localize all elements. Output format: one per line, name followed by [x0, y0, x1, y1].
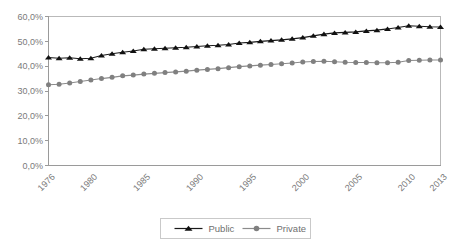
data-point-marker	[184, 69, 189, 74]
data-point-marker	[205, 67, 210, 72]
data-point-marker	[163, 70, 168, 75]
y-axis-tick-label: 0,0%	[22, 161, 43, 171]
data-point-marker	[279, 61, 284, 66]
data-point-marker	[173, 69, 178, 74]
data-point-marker	[396, 60, 401, 65]
chart-container: 0,0%10,0%20,0%30,0%40,0%50,0%60,0% 19761…	[0, 0, 454, 244]
plot-frame	[49, 17, 441, 166]
line-chart: 0,0%10,0%20,0%30,0%40,0%50,0%60,0% 19761…	[0, 0, 454, 244]
data-point-marker	[258, 63, 263, 68]
data-point-marker	[300, 59, 305, 64]
legend-item-label: Private	[277, 223, 307, 234]
data-point-marker	[46, 82, 51, 87]
y-axis-tick-label: 40,0%	[17, 61, 43, 71]
x-axis-tick-label: 2000	[290, 172, 311, 193]
x-axis-tick-label: 1976	[36, 172, 57, 193]
series-layer	[45, 23, 444, 87]
data-point-marker	[216, 66, 221, 71]
data-point-marker	[67, 81, 72, 86]
series-line-private	[49, 60, 441, 85]
data-point-marker	[237, 64, 242, 69]
data-point-marker	[110, 75, 115, 80]
series-public	[45, 23, 444, 61]
x-axis-tick-label: 1990	[184, 172, 205, 193]
data-point-marker	[311, 59, 316, 64]
x-axis-tick-label: 1980	[78, 172, 99, 193]
data-point-marker	[120, 73, 125, 78]
data-point-marker	[290, 60, 295, 65]
x-axis-tick-label: 1995	[237, 172, 258, 193]
data-point-marker	[427, 57, 432, 62]
data-point-marker	[78, 79, 83, 84]
data-point-marker	[417, 58, 422, 63]
data-point-marker	[343, 60, 348, 65]
data-point-marker	[406, 58, 411, 63]
data-point-marker	[385, 60, 390, 65]
data-point-marker	[268, 62, 273, 67]
legend-marker-circle-icon	[254, 226, 260, 232]
y-axis-tick-label: 60,0%	[17, 12, 43, 22]
chart-legend: PublicPrivate	[161, 219, 311, 239]
data-point-marker	[438, 57, 443, 62]
data-point-marker	[99, 76, 104, 81]
data-point-marker	[131, 73, 136, 78]
data-point-marker	[194, 68, 199, 73]
y-axis-tick-label: 30,0%	[17, 86, 43, 96]
x-axis-tick-label: 1985	[131, 172, 152, 193]
x-axis-tick-label: 2013	[428, 172, 449, 193]
series-private	[46, 57, 443, 87]
data-point-marker	[152, 71, 157, 76]
x-axis-tick-label: 2010	[396, 172, 417, 193]
series-line-public	[49, 26, 441, 59]
y-axis-tick-label: 50,0%	[17, 37, 43, 47]
data-point-marker	[321, 59, 326, 64]
data-point-marker	[88, 78, 93, 83]
data-point-marker	[353, 60, 358, 65]
data-point-marker	[141, 72, 146, 77]
x-axis-tick-labels: 197619801985199019952000200520102013	[36, 172, 449, 193]
y-axis-tick-label: 20,0%	[17, 111, 43, 121]
x-axis-tick-label: 2005	[343, 172, 364, 193]
data-point-marker	[247, 63, 252, 68]
data-point-marker	[364, 60, 369, 65]
data-point-marker	[374, 60, 379, 65]
legend-item-label: Public	[209, 223, 235, 234]
data-point-marker	[332, 59, 337, 64]
y-axis-tick-label: 10,0%	[17, 136, 43, 146]
y-axis-tick-marks	[45, 17, 49, 166]
data-point-marker	[57, 82, 62, 87]
y-axis-tick-labels: 0,0%10,0%20,0%30,0%40,0%50,0%60,0%	[17, 12, 43, 171]
data-point-marker	[226, 65, 231, 70]
